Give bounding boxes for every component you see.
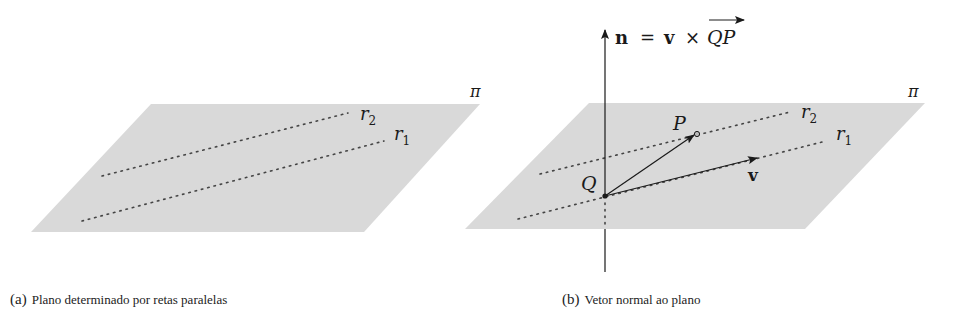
caption-a-tag: (a) xyxy=(10,291,27,307)
label-pi-a: π xyxy=(469,82,481,101)
caption-a: (a)Plano determinado por retas paralelas xyxy=(10,291,227,308)
label-v: v xyxy=(747,165,759,185)
plane-pi-b xyxy=(465,103,925,229)
svg-text:v: v xyxy=(663,27,675,48)
caption-b-tag: (b) xyxy=(562,291,580,307)
label-P: P xyxy=(672,112,687,134)
point-P xyxy=(694,131,699,136)
caption-a-text: Plano determinado por retas paralelas xyxy=(32,292,228,307)
label-pi-b: π xyxy=(907,82,919,101)
svg-text:×: × xyxy=(685,27,700,48)
figure-b: P Q v r2 r1 π n = v × QP xyxy=(465,20,925,272)
svg-text:n: n xyxy=(615,27,628,48)
caption-b: (b)Vetor normal ao plano xyxy=(562,291,700,308)
figure-canvas: r2 r1 π P Q v r2 r1 π n = v × QP xyxy=(0,0,954,329)
normal-equation: n = v × QP xyxy=(615,20,744,48)
svg-text:=: = xyxy=(640,27,655,48)
plane-pi-a xyxy=(31,104,480,232)
label-Q: Q xyxy=(581,172,597,194)
figure-a: r2 r1 π xyxy=(31,82,481,232)
caption-b-text: Vetor normal ao plano xyxy=(585,292,701,307)
svg-text:QP: QP xyxy=(707,26,737,48)
point-Q xyxy=(602,193,607,198)
